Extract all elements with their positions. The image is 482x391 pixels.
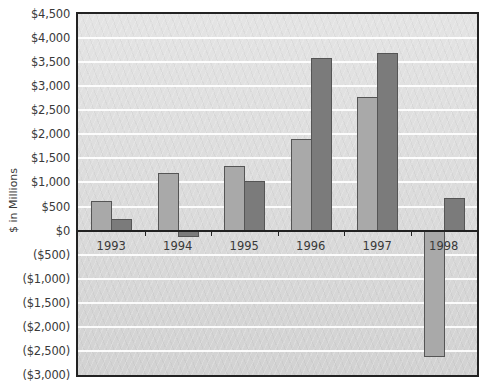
plot-area: 199319941995199619971998 [76, 12, 479, 377]
gridline [78, 109, 477, 111]
category-label: 1994 [145, 239, 212, 253]
y-tick-label: $3,500 [31, 55, 70, 69]
y-axis-label: $ in Millions [7, 156, 20, 246]
bar-1996-series-1 [291, 139, 312, 231]
gridline [78, 254, 477, 256]
bar-1994-series-1 [158, 173, 179, 230]
gridline [78, 37, 477, 39]
y-tick-label: $2,000 [31, 127, 70, 141]
x-tick-mark [278, 232, 279, 236]
bar-1997-series-2 [377, 53, 398, 231]
x-tick-mark [411, 232, 412, 236]
y-tick-label: $1,000 [31, 175, 70, 189]
gridline [78, 350, 477, 352]
category-label: 1998 [411, 239, 478, 253]
gridline [78, 181, 477, 183]
gridline [78, 206, 477, 208]
bar-1993-series-1 [91, 201, 112, 231]
bar-chart: $ in Millions $4,500$4,000$3,500$3,000$2… [0, 0, 482, 391]
y-tick-label: $0 [56, 224, 70, 238]
bar-1995-series-1 [224, 166, 245, 231]
gridline [78, 278, 477, 280]
bar-1998-series-2 [444, 198, 465, 230]
y-tick-label: $2,500 [31, 103, 70, 117]
y-tick-label: ($2,000) [22, 320, 70, 334]
category-label: 1993 [78, 239, 145, 253]
y-tick-label: $1,500 [31, 151, 70, 165]
y-tick-label: ($2,500) [22, 344, 70, 358]
x-tick-mark [211, 232, 212, 236]
y-tick-label: ($500) [33, 248, 70, 262]
x-tick-mark [344, 232, 345, 236]
category-label: 1997 [344, 239, 411, 253]
bar-1997-series-1 [357, 97, 378, 230]
category-label: 1996 [278, 239, 345, 253]
gridline [78, 157, 477, 159]
gridline [78, 133, 477, 135]
y-tick-label: $4,500 [31, 7, 70, 21]
gridline [78, 61, 477, 63]
y-tick-label: $3,000 [31, 79, 70, 93]
y-tick-label: $4,000 [31, 31, 70, 45]
gridline [78, 326, 477, 328]
x-tick-mark [145, 232, 146, 236]
zero-axis-line [78, 230, 477, 232]
y-tick-label: ($1,000) [22, 272, 70, 286]
y-tick-label: ($3,000) [22, 368, 70, 382]
y-tick-label: ($1,500) [22, 296, 70, 310]
bar-1996-series-2 [311, 58, 332, 230]
y-tick-label: $500 [42, 200, 70, 214]
bar-1995-series-2 [244, 181, 265, 231]
category-label: 1995 [211, 239, 278, 253]
gridline [78, 302, 477, 304]
gridline [78, 85, 477, 87]
